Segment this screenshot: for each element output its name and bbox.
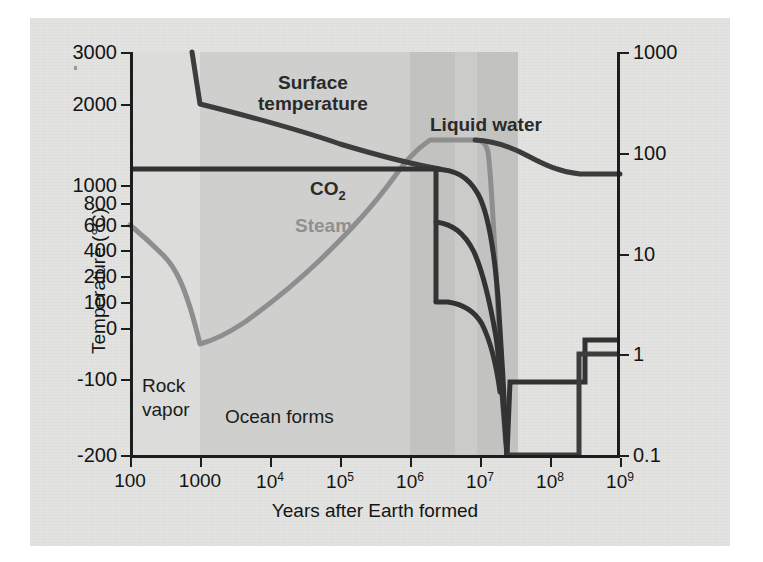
y-axis-right-tick-mark — [620, 52, 629, 54]
y-axis-right-tick-mark — [620, 354, 629, 356]
x-axis-tick-label: 109 — [606, 470, 634, 493]
y-axis-left-tick-label: 400 — [84, 239, 117, 262]
y-axis-left-tick-mark — [121, 302, 130, 304]
label-rock-vapor-line2: vapor — [142, 399, 190, 420]
label-surface-temperature-line2: temperature — [258, 93, 368, 114]
y-axis-left-tick-mark — [121, 52, 130, 54]
scan-speck — [74, 66, 77, 70]
y-axis-right-tick-label: 10 — [633, 243, 655, 266]
y-axis-left-tick-label: 600 — [84, 214, 117, 237]
y-axis-left-tick-label: 2000 — [73, 93, 118, 116]
y-axis-left-tick-label: 800 — [84, 192, 117, 215]
y-axis-left-tick-mark — [121, 225, 130, 227]
y-axis-left-tick-label: 3000 — [73, 41, 118, 64]
label-rock-vapor-line1: Rock — [142, 375, 185, 396]
x-axis-line — [130, 455, 620, 458]
plot-area: 3000200010008006004002001000-100-200 100… — [130, 52, 620, 458]
y-axis-right-tick-mark — [620, 455, 629, 457]
x-axis-tick-mark — [200, 458, 202, 467]
y-axis-right-tick-label: 1000 — [633, 41, 678, 64]
co2-curve-main — [130, 169, 436, 302]
figure-container: Temperature (°C) Amount of gas or liquid… — [0, 0, 763, 562]
curves-svg — [130, 52, 620, 458]
y-axis-left-tick-label: 100 — [84, 291, 117, 314]
y-axis-left-tick-label: 0 — [106, 317, 117, 340]
x-axis-tick-mark — [410, 458, 412, 467]
x-axis-tick-mark — [130, 458, 132, 467]
y-axis-left-tick-mark — [121, 185, 130, 187]
label-liquid-water: Liquid water — [430, 114, 542, 135]
label-co2-subscript: 2 — [339, 188, 346, 203]
x-axis-tick-mark — [550, 458, 552, 467]
y-axis-left-tick-mark — [121, 379, 130, 381]
label-co2-text: CO — [310, 178, 339, 199]
label-surface-temperature-line1: Surface — [278, 72, 348, 93]
y-axis-right-tick-label: 100 — [633, 142, 666, 165]
y-axis-left-tick-mark — [121, 250, 130, 252]
y-axis-left-tick-mark — [121, 455, 130, 457]
x-axis-tick-label: 100 — [114, 470, 146, 492]
y-axis-left-tick-mark — [121, 203, 130, 205]
y-axis-left-tick-label: -100 — [77, 368, 117, 391]
y-axis-left-tick-mark — [121, 276, 130, 278]
x-axis-tick-label: 108 — [536, 470, 564, 493]
steam-curve-plateau — [507, 354, 620, 455]
y-axis-right-tick-mark — [620, 254, 629, 256]
y-axis-right-tick-label: 0.1 — [633, 444, 661, 467]
label-ocean-forms: Ocean forms — [225, 406, 334, 427]
y-axis-left-tick-mark — [121, 328, 130, 330]
x-axis-tick-label: 105 — [326, 470, 354, 493]
label-rock-vapor: Rock vapor — [142, 374, 190, 422]
x-axis-tick-label: 106 — [396, 470, 424, 493]
y-axis-right-tick-label: 1 — [633, 343, 644, 366]
label-surface-temperature: Surface temperature — [258, 72, 368, 115]
y-axis-left-tick-label: 200 — [84, 265, 117, 288]
x-axis-tick-mark — [270, 458, 272, 467]
liquid-water-curve — [475, 140, 620, 174]
y-axis-left-line — [130, 52, 133, 458]
co2-curve-plateau — [507, 340, 620, 455]
y-axis-right-tick-mark — [620, 153, 629, 155]
label-co2: CO2 — [310, 178, 346, 203]
x-axis-tick-label: 1000 — [179, 470, 221, 492]
x-axis-tick-label: 107 — [466, 470, 494, 493]
x-axis-tick-mark — [340, 458, 342, 467]
x-axis-tick-label: 104 — [256, 470, 284, 493]
y-axis-left-tick-label: -200 — [77, 444, 117, 467]
x-axis-tick-mark — [620, 458, 622, 467]
x-axis-tick-mark — [480, 458, 482, 467]
label-steam: Steam — [295, 215, 352, 236]
y-axis-left-tick-mark — [121, 104, 130, 106]
x-axis-title: Years after Earth formed — [130, 500, 620, 522]
